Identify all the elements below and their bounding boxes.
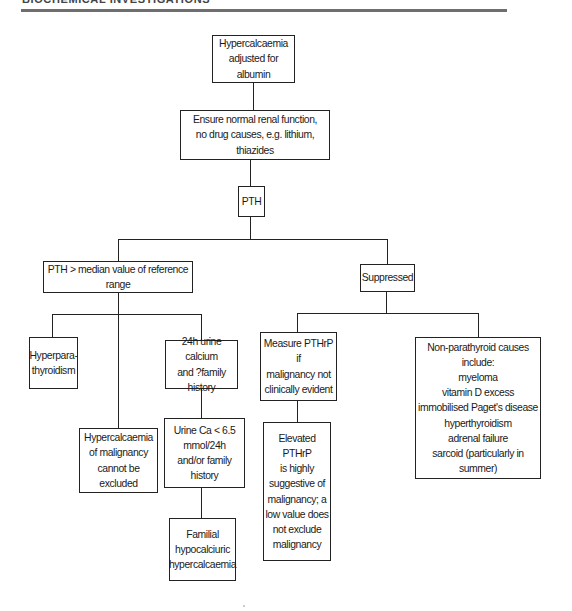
connector — [52, 314, 53, 337]
connector — [118, 239, 388, 240]
connector — [253, 82, 254, 110]
node-measure-pthrp: Measure PTHrP if malignancy not clinical… — [260, 332, 337, 401]
connector — [250, 216, 251, 239]
node-pth: PTH — [238, 186, 265, 217]
node-suppressed: Suppressed — [360, 264, 415, 292]
connector — [250, 159, 251, 186]
connector — [52, 314, 202, 315]
node-heading: Non-parathyroid causes include: — [427, 340, 529, 370]
node-label: 24h urine calcium and ?family history — [166, 334, 237, 394]
scan-speck — [243, 605, 245, 607]
node-label: Hyperpara- thyroidism — [30, 348, 78, 378]
node-elevated-pthrp: Elevated PTHrP is highly suggestive of m… — [263, 422, 331, 561]
connector — [201, 487, 202, 518]
connector — [118, 239, 119, 261]
node-ensure-renal-function: Ensure normal renal function, no drug ca… — [180, 110, 330, 160]
node-non-parathyroid-causes: Non-parathyroid causes include: myeloma … — [415, 337, 541, 479]
cause-item: adrenal failure — [448, 431, 508, 446]
node-24h-urine-calcium: 24h urine calcium and ?family history — [165, 340, 238, 389]
running-header: BIOCHEMICAL INVESTIGATIONS — [22, 0, 210, 5]
connector — [478, 313, 479, 337]
cause-item: myeloma — [458, 370, 497, 385]
connector — [297, 313, 298, 332]
node-label: PTH > median value of reference range — [44, 262, 192, 292]
node-pth-above-median: PTH > median value of reference range — [43, 261, 193, 293]
node-familial-hypocalciuric: Familial hypocalciuric hypercalcaemia — [169, 518, 236, 581]
cause-item: sarcoid (particularly in summer) — [416, 446, 540, 476]
node-label: Elevated PTHrP is highly suggestive of m… — [264, 431, 330, 552]
cause-item: immobilised Paget's disease — [418, 400, 538, 415]
node-hyperparathyroidism: Hyperpara- thyroidism — [29, 337, 78, 389]
header-rule — [21, 9, 507, 12]
node-label: Familial hypocalciuric hypercalcaemia — [169, 527, 236, 572]
connector — [387, 239, 388, 264]
node-malignancy-not-excluded: Hypercalcaemia of malignancy cannot be e… — [79, 428, 158, 493]
connector — [297, 313, 479, 314]
node-urine-ca-result: Urine Ca < 6.5 mmol/24h and/or family hi… — [164, 418, 245, 488]
node-label: PTH — [242, 194, 262, 209]
node-label: Measure PTHrP if malignancy not clinical… — [261, 336, 336, 396]
cause-item: hyperthyroidism — [444, 416, 511, 431]
connector — [118, 292, 119, 428]
node-label: Hypercalcaemia adjusted for albumin — [213, 36, 294, 81]
node-hypercalcaemia-adjusted: Hypercalcaemia adjusted for albumin — [212, 35, 295, 83]
node-label: Hypercalcaemia of malignancy cannot be e… — [80, 430, 157, 490]
node-label: Suppressed — [362, 270, 413, 285]
connector — [297, 400, 298, 422]
node-label: Ensure normal renal function, no drug ca… — [181, 112, 329, 157]
connector — [386, 291, 387, 313]
node-label: Urine Ca < 6.5 mmol/24h and/or family hi… — [165, 423, 244, 483]
cause-item: vitamin D excess — [442, 385, 514, 400]
